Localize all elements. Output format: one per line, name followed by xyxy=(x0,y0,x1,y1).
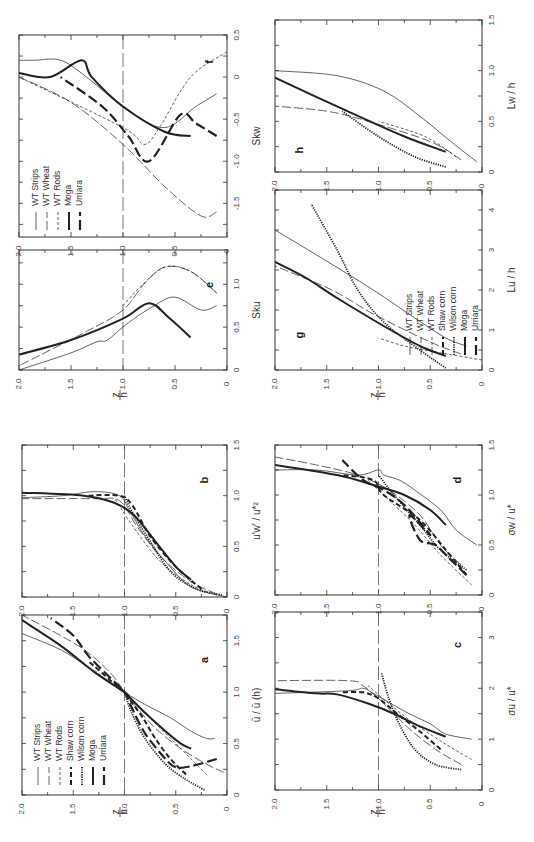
legend-label: Moga xyxy=(87,739,97,761)
z-tick-label: 2.0 xyxy=(270,180,279,192)
z-tick-label: 0 xyxy=(222,806,231,811)
x-tick-label: 1 xyxy=(487,736,496,741)
legend-label: Moga xyxy=(459,309,469,331)
x-tick-label: 1.0 xyxy=(232,686,241,698)
x-tick-label: 1.0 xyxy=(487,65,496,77)
z-tick-label: 0.5 xyxy=(425,378,434,390)
legend-label: WT Strips xyxy=(32,724,42,761)
plot-frame xyxy=(275,190,482,370)
legend-label: Urriara xyxy=(98,735,108,761)
x-tick-label: 4 xyxy=(487,207,496,212)
z-tick-label: 1.5 xyxy=(322,798,331,810)
series-wilson-corn xyxy=(382,673,462,770)
z-tick-label: 0 xyxy=(477,801,486,806)
series-moga xyxy=(275,465,446,525)
x-tick-label: 1.5 xyxy=(487,14,496,26)
z-tick-label: 1.0 xyxy=(374,180,383,192)
x-tick-label: 0.5 xyxy=(232,737,241,749)
plot-frame xyxy=(275,20,482,172)
x-tick-label: 3 xyxy=(487,635,496,640)
z-tick-label: 2.0 xyxy=(270,378,279,390)
series-urriara xyxy=(61,77,217,162)
series-wt-rods xyxy=(368,686,472,760)
z-tick-label: 2.0 xyxy=(14,378,23,390)
series-wt-wheat xyxy=(22,498,217,594)
legend-label: WT Wheat xyxy=(415,290,425,331)
x-tick-label: 0.5 xyxy=(232,321,241,333)
series-shaw-corn xyxy=(342,475,466,575)
x-tick-label: 3 xyxy=(487,247,496,252)
x-tick-label: 0.5 xyxy=(232,540,241,552)
x-tick-label: 1 xyxy=(487,327,496,332)
x-tick-label: 0 xyxy=(487,169,496,174)
z-tick-label: 0.5 xyxy=(170,378,179,390)
panel-label: e xyxy=(203,282,215,288)
z-over-h-label: zh xyxy=(368,390,387,400)
legend-label: Shaw corn xyxy=(65,721,75,761)
legend: WT StripsWT WheatWT RodsShaw cornWilson … xyxy=(32,716,108,785)
legend-label: WT Wheat xyxy=(43,720,53,761)
x-tick-label: 1.5 xyxy=(232,439,241,451)
x-tick-label: 0.5 xyxy=(487,539,496,551)
series-wt-rods xyxy=(94,670,207,775)
x-tick-label: 0 xyxy=(232,74,241,79)
legend-label: WT Rods xyxy=(426,296,436,331)
legend-label: Urriara xyxy=(74,180,84,206)
z-tick-label: 0 xyxy=(222,381,231,386)
series-moga xyxy=(275,78,446,152)
series-moga xyxy=(19,60,191,136)
panel-d: 00.51.01.52.000.51.01.5σw / u*d xyxy=(270,439,517,615)
z-tick-label: 2.0 xyxy=(14,245,23,257)
z-tick-label: 0.5 xyxy=(425,798,434,810)
x-tick-label: 1.0 xyxy=(232,490,241,502)
x-tick-label: 0 xyxy=(232,367,241,372)
z-tick-label: 1.0 xyxy=(118,245,127,257)
x-axis-label: σw / u* xyxy=(506,504,517,535)
x-axis-label: Lu / h xyxy=(506,267,517,292)
z-tick-label: 1.5 xyxy=(322,378,331,390)
z-tick-label: 1.5 xyxy=(68,605,77,617)
series-moga xyxy=(22,493,191,580)
x-tick-label: 0 xyxy=(487,787,496,792)
x-tick-label: 1.5 xyxy=(232,635,241,647)
legend-label: Wilson corn xyxy=(448,286,458,331)
series-moga xyxy=(275,689,446,736)
z-over-h-label: zh xyxy=(110,390,129,400)
x-tick-label: 0.5 xyxy=(487,115,496,127)
z-tick-label: 0 xyxy=(222,608,231,613)
series-wt-wheat xyxy=(19,266,217,365)
z-tick-label: 1.0 xyxy=(374,378,383,390)
panel-label: a xyxy=(198,656,210,663)
x-tick-label: -1.5 xyxy=(232,196,241,210)
x-tick-label: -1.0 xyxy=(232,154,241,168)
svg-text:h: h xyxy=(376,392,387,398)
panel-label: h xyxy=(293,146,305,153)
z-tick-label: 1.5 xyxy=(322,603,331,615)
panel-g: 00.51.01.52.001234Lu / hgWT StripsWT Whe… xyxy=(270,190,517,390)
z-tick-label: 0.5 xyxy=(171,605,180,617)
legend-label: Shaw corn xyxy=(437,291,447,331)
legend-label: WT Wheat xyxy=(41,165,51,206)
x-tick-label: 1.0 xyxy=(232,278,241,290)
svg-text:h: h xyxy=(118,392,129,398)
panel-label: b xyxy=(198,476,210,483)
x-tick-label: 0.5 xyxy=(232,29,241,41)
z-tick-label: 0.5 xyxy=(171,803,180,815)
x-tick-label: 1.5 xyxy=(487,439,496,451)
x-tick-label: -0.5 xyxy=(232,112,241,126)
x-tick-label: 1.0 xyxy=(487,489,496,501)
x-axis-label: σu / u* xyxy=(506,686,517,716)
series-wt-strips xyxy=(19,59,217,128)
figure-canvas: 00.51.01.52.000.51.01.5ū / ū (h)aWT Stri… xyxy=(0,0,534,842)
x-axis-label: Sku xyxy=(251,301,262,318)
z-tick-label: 0.5 xyxy=(170,245,179,257)
z-tick-label: 0 xyxy=(222,248,231,253)
z-tick-label: 0 xyxy=(477,606,486,611)
z-tick-label: 1.5 xyxy=(66,245,75,257)
panel-h: 00.51.01.52.000.51.01.5Lw / hh xyxy=(270,14,517,192)
z-tick-label: 1.0 xyxy=(120,605,129,617)
z-tick-label: 2.0 xyxy=(270,798,279,810)
panels: 00.51.01.52.000.51.01.5ū / ū (h)aWT Stri… xyxy=(14,14,517,817)
z-tick-label: 1.0 xyxy=(374,603,383,615)
series-wt-strips xyxy=(275,71,477,162)
